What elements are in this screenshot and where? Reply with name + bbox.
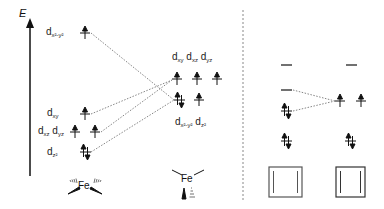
double-bar-box-icon — [269, 167, 302, 197]
spin-up-icon — [212, 72, 222, 85]
spin-up-icon — [90, 125, 100, 138]
energy-axis — [26, 18, 34, 176]
orbital-label-dxy: dxy — [47, 108, 59, 119]
spin-paired-icon — [281, 103, 292, 119]
lower-orbital-labels: dx²-y² dz² — [175, 117, 206, 128]
spin-up-icon — [356, 94, 366, 107]
orbital-label-dx2y2: dx²-y² — [46, 27, 64, 38]
left-electrons — [70, 26, 100, 160]
spin-up-icon — [335, 94, 345, 107]
right-column-2 — [335, 65, 366, 197]
spin-up-icon — [70, 125, 80, 138]
upper-orbital-labels: dxy dxz dyz — [172, 52, 212, 63]
spin-up-icon — [172, 72, 182, 85]
spin-up-icon — [194, 93, 204, 106]
double-bar-box-icon — [336, 167, 365, 197]
right-column-1 — [269, 65, 302, 197]
middle-electrons — [172, 72, 222, 108]
spin-paired-icon — [174, 92, 185, 108]
orbital-label-dxz-dyz: dxz dyz — [38, 126, 64, 137]
spin-up-icon — [192, 72, 202, 85]
spin-paired-icon — [345, 133, 356, 149]
tetrahedral-fe-label: Fe — [181, 173, 193, 184]
orbital-label-dz2: dz² — [47, 147, 58, 158]
energy-axis-label: E — [19, 7, 26, 19]
square-planar-fe-label: Fe — [78, 180, 90, 191]
spin-up-icon — [80, 107, 90, 120]
spin-paired-icon — [80, 144, 91, 160]
right-correlation-lines — [293, 90, 335, 111]
spin-paired-icon — [281, 133, 292, 149]
correlation-lines — [91, 33, 174, 152]
spin-up-icon — [80, 26, 90, 39]
